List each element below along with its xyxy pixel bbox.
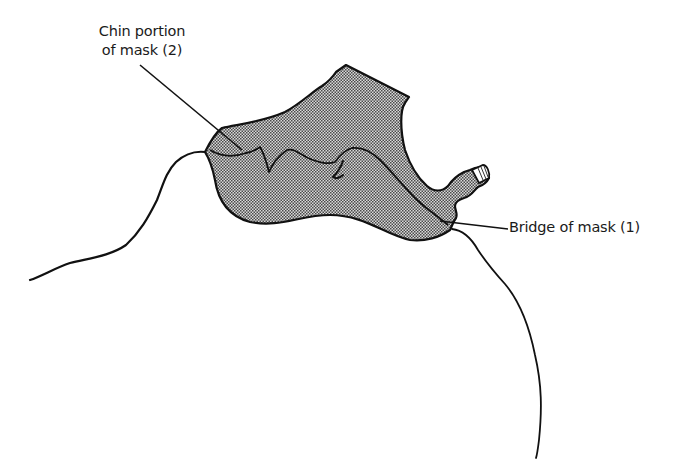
chin-portion-label: Chin portion of mask (2) bbox=[84, 22, 200, 60]
chin-label-line2: of mask (2) bbox=[84, 41, 200, 60]
chin-neck-outline bbox=[30, 152, 205, 280]
chin-leader-line bbox=[140, 65, 242, 150]
forehead-head-outline bbox=[452, 229, 541, 458]
bridge-of-mask-label: Bridge of mask (1) bbox=[509, 218, 640, 237]
chin-label-line1: Chin portion bbox=[84, 22, 200, 41]
mask-diagram bbox=[0, 0, 692, 475]
